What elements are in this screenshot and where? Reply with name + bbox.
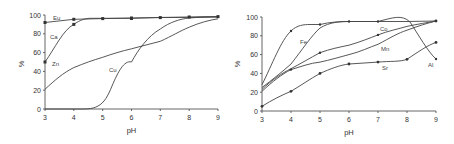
x-tick-label: 8 <box>187 114 191 121</box>
series-label-zn: Zn <box>52 61 59 67</box>
series-mn-line <box>262 21 436 91</box>
x-tick-label: 9 <box>216 114 220 121</box>
right-x-ticks: 3 4 5 6 7 8 9 <box>260 111 438 123</box>
series-co-line <box>262 21 436 89</box>
series-cu-line <box>45 17 218 109</box>
y-tick-label: 100 <box>246 14 258 21</box>
x-tick-label: 6 <box>130 114 134 121</box>
x-tick-label: 6 <box>347 116 351 123</box>
series-label-eu: Eu <box>53 15 60 21</box>
series-al-line <box>262 17 436 87</box>
series-zn-line <box>45 19 218 90</box>
x-tick-label: 7 <box>158 114 162 121</box>
x-tick-label: 7 <box>376 116 380 123</box>
left-markers <box>44 15 220 63</box>
left-chart: 0 20 40 60 80 100 3 4 5 6 7 8 9 pH % <box>17 12 220 136</box>
series-label-mn: Mn <box>381 46 389 52</box>
right-chart: 0 20 40 60 80 100 3 4 5 6 7 8 9 pH % <box>233 14 438 138</box>
x-tick-label: 8 <box>405 116 409 123</box>
y-tick-label: 40 <box>250 70 258 77</box>
left-y-ticks: 0 20 40 60 80 100 <box>29 12 45 113</box>
y-tick-label: 60 <box>33 49 41 56</box>
series-label-ca: Ca <box>50 34 58 40</box>
y-tick-label: 20 <box>250 89 258 96</box>
x-tick-label: 3 <box>260 116 264 123</box>
y-tick-label: 80 <box>250 32 258 39</box>
left-y-axis-label: % <box>17 60 26 67</box>
series-label-sr: Sr <box>382 65 388 71</box>
series-fe-line <box>262 21 436 85</box>
x-tick-label: 4 <box>289 116 293 123</box>
x-tick-label: 9 <box>434 116 438 123</box>
y-tick-label: 0 <box>254 108 258 115</box>
series-ca-line <box>45 17 218 62</box>
x-tick-label: 5 <box>101 114 105 121</box>
x-tick-label: 4 <box>72 114 76 121</box>
left-x-ticks: 3 4 5 6 7 8 9 <box>43 109 220 121</box>
right-y-ticks: 0 20 40 60 80 100 <box>246 14 262 115</box>
y-tick-label: 0 <box>37 106 41 113</box>
x-tick-label: 3 <box>43 114 47 121</box>
series-label-fe: Fe <box>300 39 308 45</box>
right-y-axis-label: % <box>233 60 242 67</box>
right-markers <box>261 20 438 108</box>
charts-canvas: 0 20 40 60 80 100 3 4 5 6 7 8 9 pH % <box>0 0 454 144</box>
series-label-co: Co <box>380 26 388 32</box>
y-tick-label: 80 <box>33 30 41 37</box>
series-sr-line <box>262 42 436 106</box>
y-tick-label: 60 <box>250 51 258 58</box>
right-x-axis-label: pH <box>344 128 354 137</box>
series-label-al: Al <box>428 62 433 68</box>
y-tick-label: 100 <box>29 12 41 19</box>
y-tick-label: 20 <box>33 87 41 94</box>
y-tick-label: 40 <box>33 68 41 75</box>
left-x-axis-label: pH <box>127 126 137 135</box>
series-label-cu: Cu <box>109 67 117 73</box>
x-tick-label: 5 <box>318 116 322 123</box>
